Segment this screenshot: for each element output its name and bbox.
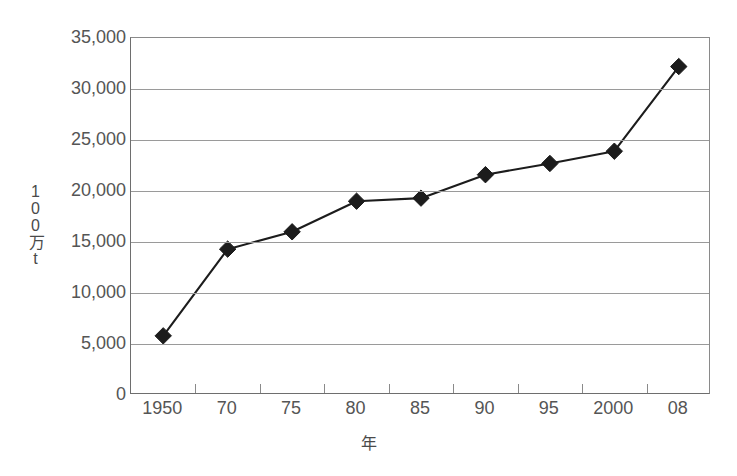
x-axis-tick-mark xyxy=(582,384,583,393)
x-axis-tick-mark xyxy=(195,384,196,393)
y-axis-tick-labels: 05,00010,00015,00020,00025,00030,00035,0… xyxy=(40,0,126,476)
x-axis-title: 年 xyxy=(0,430,737,454)
x-axis-tick-mark xyxy=(324,384,325,393)
data-point-marker xyxy=(671,58,687,74)
x-axis-tick-mark xyxy=(260,384,261,393)
x-axis-tick-label: 2000 xyxy=(593,398,633,419)
data-point-marker xyxy=(155,328,171,344)
gridline xyxy=(131,140,709,141)
plot-area xyxy=(130,37,710,394)
data-point-marker xyxy=(219,241,235,257)
gridline xyxy=(131,242,709,243)
data-point-marker xyxy=(284,224,300,240)
gridline xyxy=(131,191,709,192)
data-point-marker xyxy=(606,143,622,159)
x-axis-tick-label: 1950 xyxy=(142,398,182,419)
x-axis-tick-label: 95 xyxy=(539,398,559,419)
y-axis-tick-label: 25,000 xyxy=(40,129,126,150)
data-point-marker xyxy=(348,193,364,209)
x-axis-tick-mark xyxy=(647,384,648,393)
data-point-marker xyxy=(477,166,493,182)
x-axis-tick-label: 85 xyxy=(410,398,430,419)
y-axis-tick-label: 5,000 xyxy=(40,333,126,354)
x-axis-tick-label: 70 xyxy=(217,398,237,419)
y-axis-tick-label: 10,000 xyxy=(40,282,126,303)
y-axis-tick-label: 20,000 xyxy=(40,180,126,201)
x-axis-tick-label: 80 xyxy=(346,398,366,419)
x-axis-tick-label: 90 xyxy=(474,398,494,419)
gridline xyxy=(131,293,709,294)
gridline xyxy=(131,344,709,345)
y-axis-tick-label: 15,000 xyxy=(40,231,126,252)
x-axis-tick-mark xyxy=(518,384,519,393)
x-axis-tick-labels: 1950707580859095200008 xyxy=(130,398,710,428)
data-series-line xyxy=(131,38,711,395)
y-axis-tick-label: 35,000 xyxy=(40,27,126,48)
gridline xyxy=(131,89,709,90)
data-point-marker xyxy=(413,190,429,206)
y-axis-tick-label: 30,000 xyxy=(40,78,126,99)
line-chart: 100万t 05,00010,00015,00020,00025,00030,0… xyxy=(0,0,737,476)
x-axis-tick-mark xyxy=(389,384,390,393)
x-axis-tick-mark xyxy=(453,384,454,393)
x-axis-tick-label: 08 xyxy=(668,398,688,419)
x-axis-tick-label: 75 xyxy=(281,398,301,419)
y-axis-tick-label: 0 xyxy=(40,384,126,405)
data-point-marker xyxy=(542,155,558,171)
